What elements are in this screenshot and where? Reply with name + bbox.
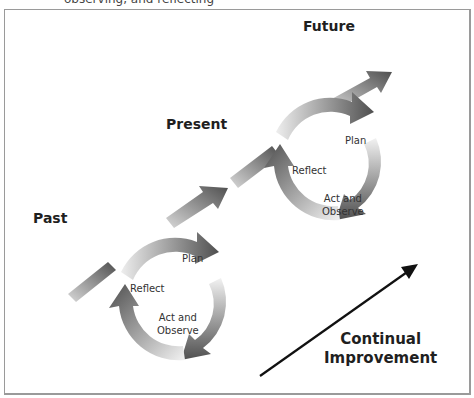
label-future: Future	[303, 18, 355, 34]
improvement-line1: Continual	[324, 330, 437, 349]
past-segment	[68, 262, 116, 302]
cycle-2-act-observe: Act and Observe	[322, 192, 364, 218]
present-arrow-1	[166, 186, 228, 228]
improvement-line2: Improvement	[324, 349, 437, 368]
present-segment	[230, 146, 280, 188]
cycle-1-plan: Plan	[182, 252, 203, 265]
label-present: Present	[166, 116, 227, 132]
label-past: Past	[33, 210, 67, 226]
cycle-1-arrows	[109, 232, 226, 360]
cycle-2-act-line1: Act and	[322, 192, 364, 205]
continual-improvement-label: Continual Improvement	[324, 330, 437, 368]
cycle-1-reflect: Reflect	[130, 282, 165, 295]
cycle-2-reflect: Reflect	[292, 164, 327, 177]
cycle-2-act-line2: Observe	[322, 205, 364, 218]
cycle-1-act-line2: Observe	[157, 324, 199, 337]
cycle-1-act-line1: Act and	[157, 311, 199, 324]
cycle-1-act-observe: Act and Observe	[157, 311, 199, 337]
cycle-2-plan: Plan	[345, 134, 366, 147]
